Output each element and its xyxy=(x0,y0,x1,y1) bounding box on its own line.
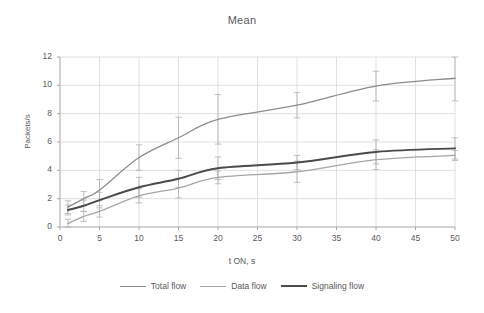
chart-figure: Mean 024681012 05101520253035404550 Pack… xyxy=(0,0,484,313)
y-tick-label: 2 xyxy=(30,193,52,203)
y-tick-label: 10 xyxy=(30,79,52,89)
x-tick-label: 45 xyxy=(404,233,428,243)
x-tick-label: 5 xyxy=(88,233,112,243)
y-tick-label: 8 xyxy=(30,108,52,118)
x-tick-label: 10 xyxy=(127,233,151,243)
x-tick-label: 50 xyxy=(443,233,467,243)
series-lines xyxy=(68,78,455,223)
x-axis-title: t ON, s xyxy=(0,256,484,266)
plot-area xyxy=(0,0,484,313)
y-tick-label: 0 xyxy=(30,221,52,231)
legend-item[interactable]: Signaling flow xyxy=(281,281,364,291)
y-tick-label: 12 xyxy=(30,51,52,61)
legend-line-icon xyxy=(200,286,226,287)
x-tick-label: 15 xyxy=(167,233,191,243)
legend-item[interactable]: Data flow xyxy=(200,281,266,291)
legend-line-icon xyxy=(120,286,146,287)
y-tick-label: 6 xyxy=(30,136,52,146)
gridlines xyxy=(60,57,455,227)
x-tick-label: 20 xyxy=(206,233,230,243)
legend-item[interactable]: Total flow xyxy=(120,281,186,291)
y-axis-title: Packets/s xyxy=(23,97,32,167)
legend-label: Total flow xyxy=(151,281,186,291)
chart-legend: Total flowData flowSignaling flow xyxy=(0,281,484,291)
x-tick-label: 25 xyxy=(246,233,270,243)
x-tick-label: 0 xyxy=(48,233,72,243)
legend-label: Data flow xyxy=(231,281,266,291)
legend-line-icon xyxy=(281,285,307,287)
legend-label: Signaling flow xyxy=(312,281,364,291)
x-tick-label: 35 xyxy=(325,233,349,243)
x-tick-label: 40 xyxy=(364,233,388,243)
x-tick-label: 30 xyxy=(285,233,309,243)
y-tick-label: 4 xyxy=(30,164,52,174)
